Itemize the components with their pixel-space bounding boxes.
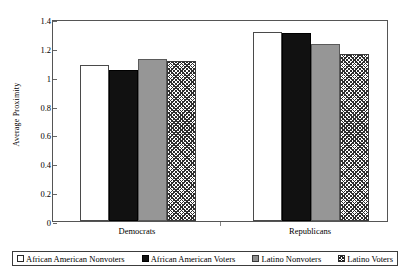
x-axis-center-tick: [220, 222, 221, 226]
y-axis-tick-mark: [53, 194, 57, 195]
legend-item-label: African American Voters: [151, 254, 236, 264]
bar-chart-figure: Average Proximity 00.20.40.60.811.21.4 D…: [0, 0, 410, 271]
y-axis-tick-mark: [53, 108, 57, 109]
legend-item[interactable]: Latino Voters: [338, 254, 393, 264]
y-axis-tick-label: 0.6: [11, 131, 51, 141]
legend-item-label: Latino Voters: [347, 254, 393, 264]
y-axis-tick-label: 0: [11, 218, 51, 228]
y-axis-tick-mark: [53, 50, 57, 51]
y-axis-tick-label: 0.2: [11, 189, 51, 199]
legend-swatch-icon: [252, 255, 259, 262]
bar: [282, 33, 311, 221]
y-axis-tick-mark: [53, 136, 57, 137]
y-axis-tick-mark: [53, 21, 57, 22]
bar: [167, 61, 196, 221]
legend-swatch-icon: [142, 255, 149, 262]
legend-item[interactable]: African American Nonvoters: [17, 254, 125, 264]
legend-item[interactable]: Latino Nonvoters: [252, 254, 321, 264]
x-axis-category-label: Democrats: [77, 226, 197, 236]
chart-legend: African American NonvotersAfrican Americ…: [12, 251, 398, 266]
bar: [340, 54, 369, 221]
legend-swatch-icon: [338, 255, 345, 262]
y-axis-tick-label: 1.2: [11, 45, 51, 55]
y-axis-tick-mark: [53, 79, 57, 80]
x-axis-category-label: Republicans: [250, 226, 370, 236]
bar: [253, 32, 282, 221]
legend-item[interactable]: African American Voters: [142, 254, 236, 264]
y-axis-tick-label: 0.8: [11, 103, 51, 113]
bar: [109, 70, 138, 222]
plot-area: 00.20.40.60.811.21.4: [52, 20, 388, 222]
y-axis-tick-mark: [53, 223, 57, 224]
legend-item-label: African American Nonvoters: [26, 254, 125, 264]
y-axis-tick-label: 1: [11, 74, 51, 84]
y-axis-tick-label: 0.4: [11, 160, 51, 170]
legend-swatch-icon: [17, 255, 24, 262]
legend-item-label: Latino Nonvoters: [261, 254, 321, 264]
bar: [311, 44, 340, 221]
bar: [138, 59, 167, 221]
y-axis-tick-mark: [53, 165, 57, 166]
y-axis-tick-label: 1.4: [11, 16, 51, 26]
bar: [80, 65, 109, 221]
